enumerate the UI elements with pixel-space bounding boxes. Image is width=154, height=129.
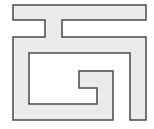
glyph-shape: [13, 5, 146, 120]
glyph-figure: [0, 0, 154, 129]
